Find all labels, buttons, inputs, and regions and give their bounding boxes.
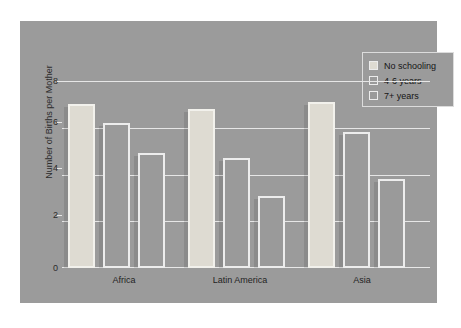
bar-latin-america-7-years[interactable]: [258, 196, 285, 268]
y-tick-label-2: 2: [38, 211, 58, 220]
category-label-africa: Africa: [64, 275, 184, 285]
y-tick-label-8: 8: [38, 77, 58, 86]
bar-asia-4-6-years[interactable]: [343, 132, 370, 268]
left-edge-marker: [0, 60, 12, 63]
plot-area: [62, 81, 430, 268]
legend-item-no-schooling[interactable]: No schooling: [369, 58, 447, 73]
legend-label-no-schooling: No schooling: [384, 61, 436, 71]
bar-africa-no-schooling[interactable]: [68, 104, 95, 268]
y-tick-label-0: 0: [38, 264, 58, 273]
chart-page: Number of Births per Mother 8 6 4 2 0 Af…: [0, 0, 461, 328]
legend-swatch-icon-no-schooling: [369, 61, 378, 70]
bar-latin-america-4-6-years[interactable]: [223, 158, 250, 268]
bar-asia-no-schooling[interactable]: [308, 102, 335, 268]
y-tick-label-6: 6: [38, 118, 58, 127]
bar-latin-america-no-schooling[interactable]: [188, 109, 215, 268]
category-label-asia: Asia: [302, 275, 422, 285]
bar-africa-4-6-years[interactable]: [103, 123, 130, 268]
bar-africa-7-years[interactable]: [138, 153, 165, 268]
gridline-8: [62, 81, 430, 82]
y-tick-label-4: 4: [38, 164, 58, 173]
bar-asia-7-years[interactable]: [378, 179, 405, 268]
category-label-latin-america: Latin America: [180, 275, 300, 285]
